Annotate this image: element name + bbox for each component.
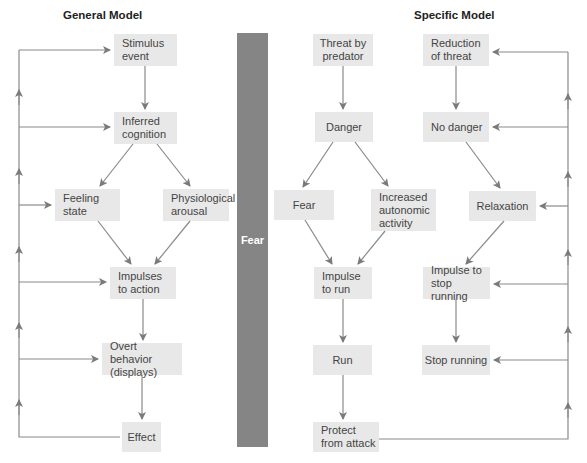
connector-arrows [0, 0, 587, 463]
